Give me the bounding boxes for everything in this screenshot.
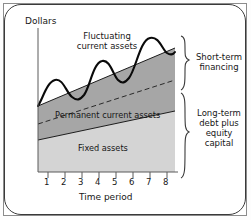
annotation-fluctuating-line1: Fluctuating <box>83 31 131 41</box>
brace-label-long-term-debt: Long-term debt plus equity capital <box>190 108 248 148</box>
figure-frame: Dollars Fluctuating current assets Perma… <box>0 0 251 220</box>
x-tick-label-7: 7 <box>146 177 151 187</box>
x-tick-label-3: 3 <box>78 177 83 187</box>
brace-label-long-term-line2: debt plus <box>199 118 239 128</box>
brace-label-short-term-line1: Short-term <box>196 52 242 62</box>
x-tick-label-5: 5 <box>112 177 117 187</box>
annotation-permanent-current-assets: Permanent current assets <box>55 110 160 120</box>
x-tick-label-8: 8 <box>163 177 168 187</box>
brace-long-term-debt <box>181 93 189 178</box>
axis-label-time-period: Time period <box>79 192 133 202</box>
x-tick-label-1: 1 <box>44 177 49 187</box>
axis-label-dollars: Dollars <box>25 16 56 26</box>
brace-label-long-term-line3: equity <box>206 128 233 138</box>
annotation-fluctuating-current-assets: Fluctuating current assets <box>71 31 143 51</box>
x-tick-label-2: 2 <box>61 177 66 187</box>
brace-label-short-term-line2: financing <box>199 62 238 72</box>
x-tick-label-4: 4 <box>95 177 100 187</box>
annotation-fixed-assets: Fixed assets <box>78 143 128 153</box>
brace-label-long-term-line4: capital <box>205 138 234 148</box>
brace-label-short-term-financing: Short-term financing <box>190 52 248 72</box>
brace-label-long-term-line1: Long-term <box>197 108 241 118</box>
annotation-fluctuating-line2: current assets <box>77 41 137 51</box>
x-tick-label-6: 6 <box>129 177 134 187</box>
brace-short-term-financing <box>181 36 189 90</box>
